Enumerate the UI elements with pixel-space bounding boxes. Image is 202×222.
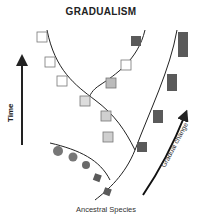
- lineage-left-curve: [47, 30, 135, 150]
- gradualism-diagram: Gradual change: [0, 0, 202, 222]
- gradual-change-label: Gradual change: [160, 121, 190, 169]
- gradual-change-arrow-icon: [143, 115, 185, 195]
